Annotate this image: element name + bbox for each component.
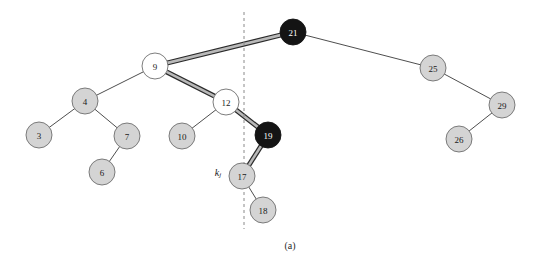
node-label: 19 xyxy=(264,131,274,141)
node-label: 26 xyxy=(455,135,465,145)
tree-edge xyxy=(96,71,145,95)
tree-node-9[interactable]: 9 xyxy=(142,53,168,79)
node-label: 29 xyxy=(498,101,508,111)
tree-edge xyxy=(109,146,120,162)
node-label: 25 xyxy=(429,64,439,74)
tree-node-25[interactable]: 25 xyxy=(420,55,446,81)
figure-caption: (a) xyxy=(284,240,295,252)
tree-node-3[interactable]: 3 xyxy=(26,122,52,148)
node-label: 10 xyxy=(178,132,188,142)
tree-edge xyxy=(49,108,76,128)
tree-node-29[interactable]: 29 xyxy=(489,92,515,118)
annotation-layer: kj xyxy=(215,167,221,180)
tree-node-12[interactable]: 12 xyxy=(213,89,239,115)
tree-edge xyxy=(248,186,256,200)
tree-edge xyxy=(468,112,492,131)
tree-node-17[interactable]: 17 xyxy=(229,163,255,189)
tree-edge-highlighted xyxy=(166,71,216,96)
tree-edge-highlighted xyxy=(248,145,261,166)
node-label: 21 xyxy=(289,28,298,38)
tree-node-4[interactable]: 4 xyxy=(72,88,98,114)
tree-node-18[interactable]: 18 xyxy=(250,197,276,223)
node-label: 6 xyxy=(100,168,105,178)
node-label: 17 xyxy=(238,172,248,182)
node-label: 3 xyxy=(37,131,42,141)
tree-node-26[interactable]: 26 xyxy=(446,126,472,152)
tree-node-10[interactable]: 10 xyxy=(169,123,195,149)
node-label: 4 xyxy=(83,97,88,107)
tree-node-7[interactable]: 7 xyxy=(114,123,140,149)
binary-search-tree-figure: 21925412293710192661718 kj (a) xyxy=(0,0,539,265)
tree-edge-highlighted xyxy=(235,109,258,127)
tree-edge xyxy=(305,35,422,65)
nodes-layer: 21925412293710192661718 xyxy=(26,19,515,223)
node-label: 18 xyxy=(259,206,269,216)
tree-node-21[interactable]: 21 xyxy=(280,19,306,45)
node-label: 7 xyxy=(125,132,130,142)
tree-edge xyxy=(191,109,216,128)
tree-edge-highlighted xyxy=(167,35,282,63)
tree-node-19[interactable]: 19 xyxy=(255,122,281,148)
tree-edge xyxy=(94,109,118,129)
tree-diagram-canvas: 21925412293710192661718 kj (a) xyxy=(0,0,539,265)
tree-edge xyxy=(444,74,492,100)
tree-node-6[interactable]: 6 xyxy=(89,159,115,185)
node-label: 9 xyxy=(153,62,158,72)
node-label: 12 xyxy=(222,98,231,108)
key-label-kj: kj xyxy=(215,167,221,180)
